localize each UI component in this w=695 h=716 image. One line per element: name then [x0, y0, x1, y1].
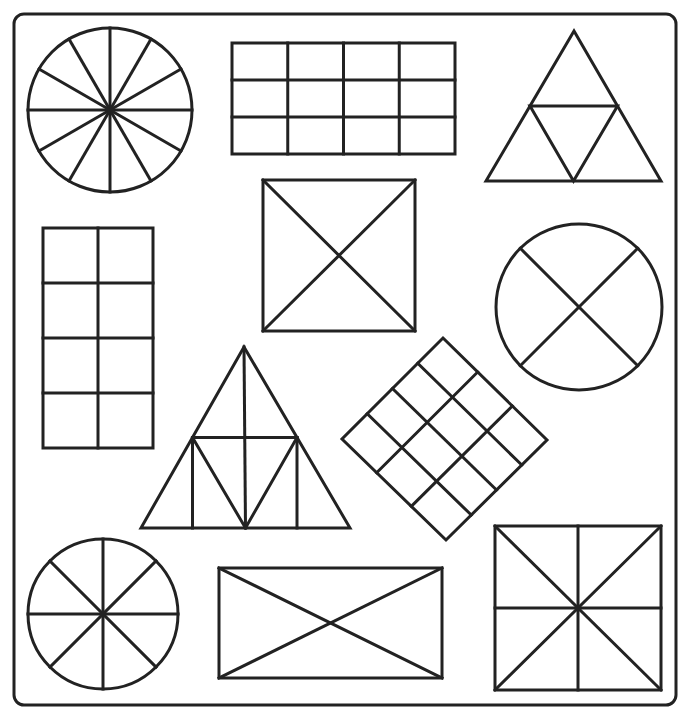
shape-circle-twelfths: [28, 28, 192, 192]
shape-triangle-eighths: [141, 347, 350, 528]
shape-diamond-grid: [342, 338, 547, 540]
shape-rect-x: [219, 568, 442, 678]
worksheet-canvas: Fraction shapes worksheet: [0, 0, 695, 716]
shapes-drawing: [0, 0, 695, 716]
shape-rect-grid-4x3: [232, 43, 455, 154]
shape-circle-quarters-x: [496, 224, 662, 390]
shape-circle-eighths: [28, 539, 178, 689]
shape-square-x: [263, 180, 415, 331]
shape-rect-grid-2x4: [43, 228, 153, 448]
shape-triangle-quarters: [486, 31, 661, 181]
shape-square-eighths: [495, 526, 661, 690]
shapes-group: [28, 28, 662, 690]
